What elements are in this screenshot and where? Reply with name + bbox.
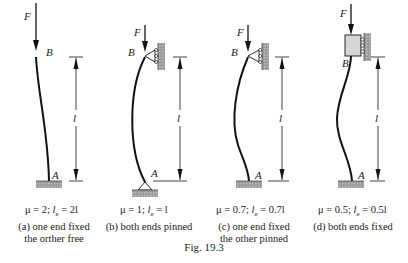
length-dimension	[153, 57, 187, 181]
bottom-label: A	[254, 169, 262, 181]
case-c-diagram: F B A l	[231, 25, 289, 188]
pin-support-icon	[132, 182, 158, 197]
case-d-diagram: F B A l	[337, 4, 385, 188]
sliding-fixed-support-icon	[345, 33, 371, 61]
top-label: B	[128, 46, 135, 58]
case-a-formula: μ = 2; le = 2l	[25, 204, 78, 218]
buckled-column	[132, 57, 145, 182]
bottom-label: A	[150, 167, 158, 179]
length-label: l	[73, 112, 76, 124]
figure-caption: Fig. 19.3	[0, 241, 408, 253]
buckled-column	[36, 57, 49, 181]
force-arrow-icon	[33, 3, 39, 51]
bottom-label: A	[51, 169, 59, 181]
case-b-description: (b) both ends pinned	[103, 221, 195, 233]
length-label: l	[279, 112, 282, 124]
fixed-support-icon	[338, 181, 364, 188]
case-d-description: (d) both ends fixed	[307, 221, 399, 233]
force-label: F	[133, 26, 141, 38]
top-label: B	[342, 57, 349, 69]
bottom-label: A	[357, 169, 365, 181]
length-label: l	[375, 112, 378, 124]
force-arrow-icon	[348, 4, 354, 35]
force-arrow-icon	[142, 25, 148, 52]
buckled-column	[337, 56, 352, 181]
top-label: B	[231, 46, 238, 58]
case-b-formula: μ = 1; le = l	[120, 204, 168, 218]
force-label: F	[23, 10, 31, 22]
force-arrow-icon	[245, 25, 251, 52]
case-b-diagram: F B A l	[128, 25, 187, 197]
force-label: F	[236, 26, 244, 38]
length-label: l	[177, 112, 180, 124]
case-a-diagram: F B A l	[23, 3, 83, 188]
pinned-roller-support-icon	[248, 43, 269, 70]
case-c-formula: μ = 0.7; le = 0.7l	[216, 204, 285, 218]
fixed-support-icon	[236, 181, 262, 188]
top-label: B	[46, 46, 53, 58]
fixed-support-icon	[36, 181, 62, 188]
pinned-roller-support-icon	[145, 43, 165, 70]
force-label: F	[339, 7, 347, 19]
case-d-formula: μ = 0.5; le = 0.5l	[318, 204, 387, 218]
buckled-column	[234, 57, 249, 181]
